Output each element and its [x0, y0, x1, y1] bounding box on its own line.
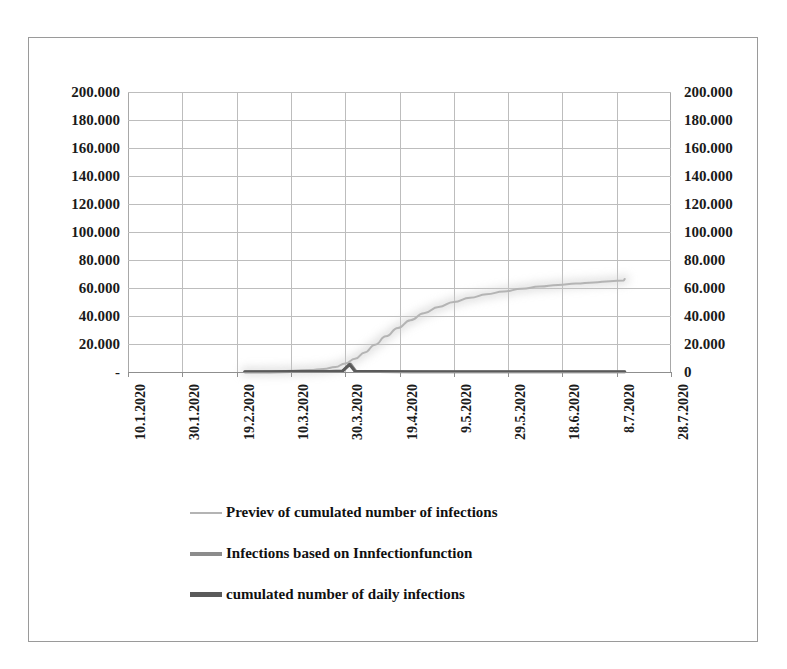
legend-item[interactable]: cumulated number of daily infections	[190, 574, 610, 615]
legend-item[interactable]: Previev of cumulated number of infection…	[190, 492, 610, 533]
y-axis-right-tick-label: 200.000	[684, 85, 733, 100]
y-axis-right-tick-label: 20.000	[684, 337, 725, 352]
x-axis-tick-label: 19.2.2020	[243, 384, 257, 440]
y-axis-left-tick-label: 40.000	[32, 309, 120, 324]
x-axis-tick-label: 9.5.2020	[460, 384, 474, 433]
y-axis-right-tick-label: 180.000	[684, 113, 733, 128]
y-axis-right-tick-label: 100.000	[684, 225, 733, 240]
x-axis-tick-label: 29.5.2020	[514, 384, 528, 440]
y-axis-right-tick-label: 160.000	[684, 141, 733, 156]
legend-item[interactable]: Infections based on Innfectionfunction	[190, 533, 610, 574]
x-axis-tick-mark	[617, 372, 618, 377]
y-axis-left-tick-label: -	[32, 365, 120, 380]
x-axis-tick-mark	[291, 372, 292, 377]
y-axis-left-tick-label: 180.000	[32, 113, 120, 128]
y-axis-left: 200.000180.000160.000140.000120.000100.0…	[32, 0, 120, 669]
series-line	[245, 279, 625, 372]
x-axis-tick-label: 30.1.2020	[188, 384, 202, 440]
legend-item-label: Previev of cumulated number of infection…	[226, 504, 498, 521]
legend-item-label: Infections based on Innfectionfunction	[226, 545, 472, 562]
y-axis-right: 200.000180.000160.000140.000120.000100.0…	[684, 0, 774, 669]
y-axis-right-tick-label: 140.000	[684, 169, 733, 184]
x-axis-tick-mark	[508, 372, 509, 377]
y-axis-left-tick-label: 60.000	[32, 281, 120, 296]
x-axis-tick-label: 10.1.2020	[134, 384, 148, 440]
y-axis-right-tick-label: 120.000	[684, 197, 733, 212]
legend-color-swatch	[190, 552, 222, 556]
legend-item-label: cumulated number of daily infections	[226, 586, 465, 603]
x-axis-tick-mark	[345, 372, 346, 377]
y-axis-right-tick-label: 80.000	[684, 253, 725, 268]
y-axis-left-tick-label: 20.000	[32, 337, 120, 352]
legend-color-swatch	[190, 512, 222, 514]
x-axis-tick-mark	[454, 372, 455, 377]
x-axis-tick-label: 30.3.2020	[351, 384, 365, 440]
x-axis-tick-label: 18.6.2020	[568, 384, 582, 440]
y-axis-left-tick-label: 80.000	[32, 253, 120, 268]
x-axis-tick-mark	[671, 372, 672, 377]
x-axis-tick-mark	[128, 372, 129, 377]
series-halo	[245, 279, 625, 372]
y-axis-left-tick-label: 160.000	[32, 141, 120, 156]
x-axis-tick-label: 8.7.2020	[623, 384, 637, 433]
series-container	[128, 92, 671, 372]
y-axis-left-tick-label: 200.000	[32, 85, 120, 100]
x-axis-tick-mark	[562, 372, 563, 377]
y-axis-left-tick-label: 120.000	[32, 197, 120, 212]
x-axis-tick-label: 19.4.2020	[406, 384, 420, 440]
y-axis-left-tick-label: 140.000	[32, 169, 120, 184]
x-axis-tick-mark	[182, 372, 183, 377]
x-axis-tick-mark	[400, 372, 401, 377]
x-axis-tick-label: 28.7.2020	[677, 384, 691, 440]
x-axis-tick-label: 10.3.2020	[297, 384, 311, 440]
legend-color-swatch	[190, 592, 222, 597]
x-axis: 10.1.202030.1.202019.2.202010.3.202030.3…	[128, 372, 671, 492]
plot-area	[128, 92, 671, 372]
y-axis-right-tick-label: 60.000	[684, 281, 725, 296]
y-axis-left-tick-label: 100.000	[32, 225, 120, 240]
chart-legend: Previev of cumulated number of infection…	[190, 492, 610, 615]
chart-figure: 200.000180.000160.000140.000120.000100.0…	[0, 0, 787, 669]
y-axis-right-tick-label: 40.000	[684, 309, 725, 324]
y-axis-right-tick-label: 0	[684, 365, 692, 380]
x-axis-tick-mark	[237, 372, 238, 377]
